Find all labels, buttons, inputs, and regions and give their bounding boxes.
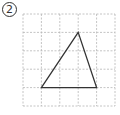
triangle-shape <box>41 32 96 87</box>
grid-diagram <box>0 0 120 115</box>
dashed-grid <box>23 14 115 106</box>
